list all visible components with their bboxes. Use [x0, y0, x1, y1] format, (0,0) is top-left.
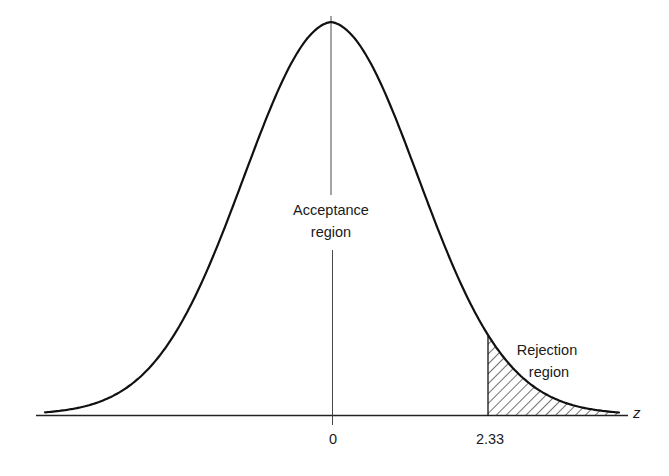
tick-label-critical: 2.33: [476, 431, 504, 447]
rejection-label-line2: region: [529, 364, 569, 380]
acceptance-label-line2: region: [311, 224, 351, 240]
axis-label-z: z: [632, 404, 641, 421]
rejection-label-line1: Rejection: [517, 342, 577, 358]
acceptance-label-line1: Acceptance: [293, 202, 369, 218]
tick-label-zero: 0: [329, 431, 337, 447]
normal-distribution-chart: Acceptance region Rejection region 0 2.3…: [0, 0, 669, 476]
